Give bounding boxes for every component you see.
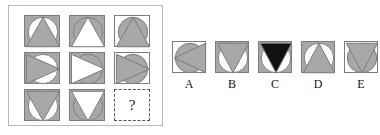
matrix-tile-r3c2	[69, 89, 105, 121]
answer-option-c-label: C	[271, 78, 279, 90]
matrix-tile-r2c1	[24, 52, 60, 84]
answer-option-b-label: B	[228, 78, 236, 90]
answer-options-row: ABCDE	[172, 41, 378, 90]
matrix-tile-r1c1	[24, 15, 60, 47]
answer-option-a-label: A	[185, 78, 194, 90]
matrix-cell-r1c2	[66, 14, 108, 48]
answer-option-c-figure	[258, 41, 292, 73]
matrix-tile-r1c3	[114, 15, 150, 47]
matrix-tile-r2c3	[114, 52, 150, 84]
answer-option-d-figure	[301, 41, 335, 73]
puzzle-root: ? ABCDE	[0, 0, 380, 135]
matrix-panel: ?	[8, 5, 163, 126]
answer-option-d[interactable]: D	[301, 41, 335, 90]
question-mark: ?	[129, 98, 136, 113]
matrix-tile-r3c1	[24, 89, 60, 121]
matrix-cell-r2c3	[111, 51, 153, 85]
matrix-tile-r2c2	[69, 52, 105, 84]
answer-option-d-label: D	[314, 78, 323, 90]
answer-option-c[interactable]: C	[258, 41, 292, 90]
answer-option-e-figure	[344, 41, 378, 73]
matrix-cell-r3c2	[66, 88, 108, 122]
answer-option-b[interactable]: B	[215, 41, 249, 90]
matrix-cell-r2c1	[21, 51, 63, 85]
answer-option-a-figure	[172, 41, 206, 73]
matrix-cell-r3c3-missing: ?	[111, 88, 153, 122]
matrix-cell-r3c1	[21, 88, 63, 122]
answer-option-e-label: E	[357, 78, 364, 90]
missing-cell-placeholder: ?	[114, 89, 150, 121]
matrix-cell-r2c2	[66, 51, 108, 85]
matrix-grid: ?	[21, 14, 153, 122]
answer-option-a[interactable]: A	[172, 41, 206, 90]
matrix-cell-r1c3	[111, 14, 153, 48]
answer-option-e[interactable]: E	[344, 41, 378, 90]
answer-option-b-figure	[215, 41, 249, 73]
matrix-tile-r1c2	[69, 15, 105, 47]
matrix-cell-r1c1	[21, 14, 63, 48]
